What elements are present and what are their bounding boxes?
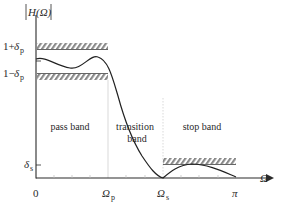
y-tick-lower-label: 1− δ p [3, 67, 24, 82]
filter-spec-diagram: H (Ω) 1+ δ p 1− δ p δ s pass band transi… [0, 0, 286, 215]
transition-band-label-1: transition [116, 121, 154, 132]
passband-lower-tolerance [37, 74, 108, 81]
y-tick-upper-label: 1+ δ p [3, 40, 24, 55]
svg-text:(Ω): (Ω) [36, 6, 52, 19]
transition-band-label-2: band [127, 133, 146, 144]
x-tick-omega-p: Ω p [102, 187, 115, 202]
stop-band-label: stop band [183, 121, 222, 132]
passband-upper-tolerance [37, 43, 108, 50]
svg-text:p: p [20, 73, 24, 82]
svg-text:Ω: Ω [102, 187, 110, 199]
svg-text:p: p [111, 193, 115, 202]
svg-text:1+: 1+ [3, 40, 15, 52]
x-tick-pi: π [232, 187, 238, 199]
svg-text:1−: 1− [3, 67, 15, 79]
x-tick-omega-s: Ω s [157, 187, 169, 202]
x-axis-label: Ω [260, 172, 268, 184]
pass-band-label: pass band [50, 121, 89, 132]
stopband-tolerance [163, 158, 236, 165]
x-tick-zero: 0 [33, 187, 39, 199]
svg-text:s: s [166, 193, 169, 202]
y-tick-delta-s-label: δ s [24, 158, 33, 173]
y-axis-label: H (Ω) [26, 4, 52, 20]
svg-text:s: s [30, 164, 33, 173]
svg-text:Ω: Ω [157, 187, 165, 199]
svg-text:p: p [20, 46, 24, 55]
